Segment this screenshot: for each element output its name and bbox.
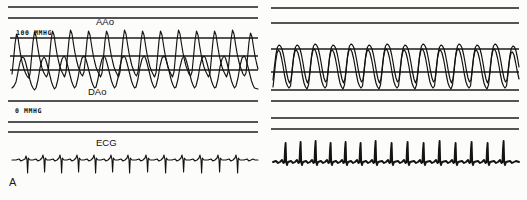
panel-b-tracing <box>263 0 527 200</box>
panel-a-scale-high-label: 100 MMHG <box>16 29 52 37</box>
panel-a-letter: A <box>9 176 17 188</box>
panel-a-ecg-trace <box>12 155 258 173</box>
figure-container: 100 MMHG 0 MMHG AAo DAo ECG A <box>0 0 527 200</box>
panel-a-scale-low-label: 0 MMHG <box>15 107 42 115</box>
panel-a-aao-label: AAo <box>96 16 114 27</box>
panel-b: 100 MMHG 0 MMHG AAo DAo ECG B <box>263 0 527 200</box>
panel-a-dao-label: DAo <box>88 86 106 97</box>
panel-a: 100 MMHG 0 MMHG AAo DAo ECG A <box>0 0 264 200</box>
panel-b-ecg-trace <box>273 141 519 165</box>
panel-a-ecg-label: ECG <box>96 137 117 148</box>
